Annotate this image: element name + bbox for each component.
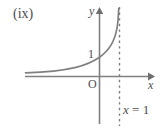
y-axis-label: y <box>89 5 94 17</box>
math-figure: (ix) y x O 1 x = 1 <box>0 0 163 128</box>
asymptote-relation: = <box>129 102 143 117</box>
function-curve <box>26 9 119 73</box>
y-intercept-tick-label: 1 <box>88 48 94 60</box>
y-axis <box>96 7 103 124</box>
part-label: (ix) <box>13 7 33 21</box>
asymptote-equation-label: x = 1 <box>123 103 149 116</box>
x-axis-label: x <box>148 79 153 91</box>
origin-label: O <box>88 78 97 90</box>
asymptote-value: 1 <box>143 102 150 117</box>
